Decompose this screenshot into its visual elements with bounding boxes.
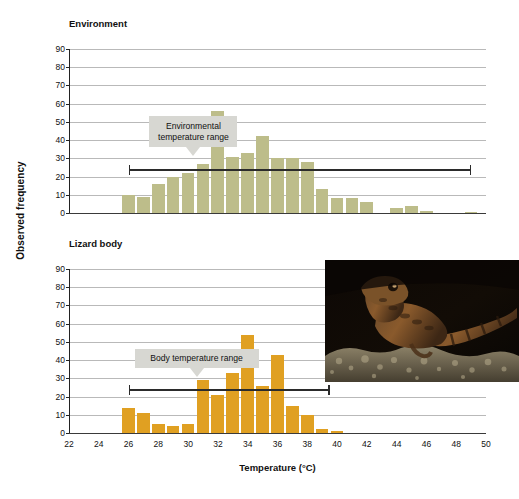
histogram-bar <box>122 408 135 434</box>
y-axis-tick-label: 90 <box>56 265 65 274</box>
y-axis-tick-label: 10 <box>56 411 65 420</box>
y-axis-label: Observed frequency <box>15 121 26 301</box>
y-axis-tick-label: 0 <box>60 429 65 438</box>
histogram-bar <box>405 206 418 213</box>
callout-environmental-range: Environmental temperature range <box>149 116 237 147</box>
callout-body-range: Body temperature range <box>135 349 259 368</box>
histogram-bar <box>331 198 344 213</box>
histogram-bar <box>226 373 239 433</box>
histogram-bar <box>122 195 135 213</box>
histogram-bar <box>360 202 373 213</box>
histogram-bar <box>167 177 180 213</box>
callout-tail <box>186 147 200 156</box>
histogram-bar <box>211 395 224 433</box>
x-axis-tick-label: 28 <box>154 439 163 449</box>
x-axis-tick-label: 48 <box>451 439 460 449</box>
x-axis-tick-label: 50 <box>481 439 490 449</box>
histogram-bar <box>271 158 284 213</box>
histogram-bar <box>271 355 284 433</box>
x-axis-tick-label: 44 <box>392 439 401 449</box>
x-axis-tick-label: 34 <box>243 439 252 449</box>
y-axis-tick-label: 40 <box>56 136 65 145</box>
x-axis-tick-label: 22 <box>64 439 73 449</box>
x-axis-tick-label: 24 <box>94 439 103 449</box>
range-cap-left <box>129 165 131 175</box>
y-axis-tick-label: 20 <box>56 172 65 181</box>
gridline <box>69 140 486 141</box>
gridline <box>69 67 486 68</box>
y-axis-tick-label: 0 <box>60 209 65 218</box>
panel-title-lizard-body: Lizard body <box>69 238 122 249</box>
y-axis-tick-label: 30 <box>56 374 65 383</box>
x-axis-tick-label: 36 <box>273 439 282 449</box>
histogram-bar <box>152 184 165 213</box>
y-axis-tick-label: 90 <box>56 45 65 54</box>
callout-tail <box>190 368 204 377</box>
y-axis-tick-label: 20 <box>56 392 65 401</box>
histogram-bar <box>197 380 210 433</box>
histogram-bar <box>256 136 269 213</box>
range-cap-right <box>328 385 330 395</box>
histogram-bar <box>182 173 195 213</box>
x-axis-tick-label: 42 <box>362 439 371 449</box>
range-cap-left <box>129 385 131 395</box>
x-axis-tick-label: 26 <box>124 439 133 449</box>
temperature-range-indicator <box>129 389 330 391</box>
x-axis-tick-label: 46 <box>422 439 431 449</box>
y-axis-tick-label: 30 <box>56 154 65 163</box>
plot-area-environment: 0102030405060708090Environmental tempera… <box>69 49 486 213</box>
x-axis-tick-label: 32 <box>213 439 222 449</box>
y-axis-line <box>69 49 70 213</box>
gridline <box>69 122 486 123</box>
histogram-bar <box>301 415 314 433</box>
histogram-bar <box>226 157 239 213</box>
lizard-photo-inset <box>325 260 519 382</box>
y-axis-tick-label: 50 <box>56 338 65 347</box>
histogram-bar <box>316 189 329 213</box>
histogram-bar <box>182 424 195 433</box>
histogram-bar <box>137 413 150 433</box>
range-cap-right <box>470 165 472 175</box>
x-axis-tick-label: 40 <box>332 439 341 449</box>
y-axis-tick-label: 80 <box>56 63 65 72</box>
x-axis-tick-label: 30 <box>183 439 192 449</box>
y-axis-tick-label: 80 <box>56 283 65 292</box>
x-axis-line <box>69 433 486 434</box>
y-axis-tick-label: 10 <box>56 191 65 200</box>
histogram-bar <box>241 153 254 213</box>
x-axis-label: Temperature (°C) <box>69 462 486 473</box>
histogram-bar <box>346 198 359 213</box>
histogram-bar <box>286 406 299 433</box>
x-axis-tick-label: 38 <box>303 439 312 449</box>
histogram-bar <box>197 164 210 213</box>
panel-title-environment: Environment <box>69 18 127 29</box>
y-axis-tick-label: 60 <box>56 99 65 108</box>
y-axis-line <box>69 269 70 433</box>
x-axis-line <box>69 213 486 214</box>
y-axis-tick-label: 70 <box>56 81 65 90</box>
y-axis-tick-label: 70 <box>56 301 65 310</box>
y-axis-tick-label: 50 <box>56 118 65 127</box>
histogram-bar <box>137 197 150 213</box>
histogram-bar <box>256 386 269 433</box>
y-axis-tick-label: 60 <box>56 319 65 328</box>
histogram-bar <box>167 426 180 433</box>
gridline <box>69 49 486 50</box>
y-axis-tick-label: 40 <box>56 356 65 365</box>
histogram-bar <box>286 158 299 213</box>
temperature-range-indicator <box>129 169 472 171</box>
gridline <box>69 104 486 105</box>
gridline <box>69 85 486 86</box>
histogram-bar <box>152 424 165 433</box>
